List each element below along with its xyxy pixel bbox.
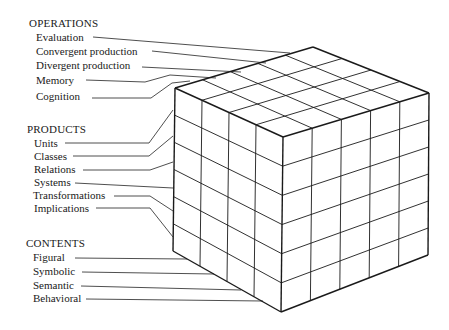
- operations-heading: OPERATIONS: [29, 17, 98, 29]
- operation-evaluation: Evaluation: [36, 31, 84, 43]
- leader-systems: [75, 183, 173, 188]
- leader-semantic: [81, 286, 241, 290]
- product-transformations: Transformations: [33, 189, 105, 201]
- leader-transformations: [114, 196, 173, 211]
- product-systems: Systems: [34, 176, 71, 188]
- operation-convergent-production: Convergent production: [36, 45, 138, 57]
- contents-heading: CONTENTS: [26, 237, 85, 249]
- product-classes: Classes: [34, 150, 67, 162]
- product-relations: Relations: [34, 163, 76, 175]
- operation-cognition: Cognition: [36, 90, 80, 102]
- operation-divergent-production: Divergent production: [36, 59, 130, 71]
- leader-convergent: [152, 51, 266, 63]
- leader-classes: [73, 136, 173, 156]
- leader-behavioral: [86, 299, 263, 301]
- products-heading: PRODUCTS: [27, 123, 86, 135]
- content-behavioral: Behavioral: [33, 292, 81, 304]
- leader-implications: [96, 208, 173, 237]
- operation-memory: Memory: [36, 74, 74, 86]
- leader-relations: [83, 162, 173, 170]
- leader-divergent: [142, 67, 241, 72]
- product-implications: Implications: [34, 202, 89, 214]
- content-semantic: Semantic: [33, 279, 74, 291]
- product-units: Units: [34, 137, 58, 149]
- cube: [173, 47, 429, 312]
- leader-lines: [65, 37, 290, 301]
- leader-symbolic: [82, 272, 214, 274]
- leader-figural: [75, 258, 187, 259]
- content-figural: Figural: [33, 251, 65, 263]
- content-symbolic: Symbolic: [33, 265, 75, 277]
